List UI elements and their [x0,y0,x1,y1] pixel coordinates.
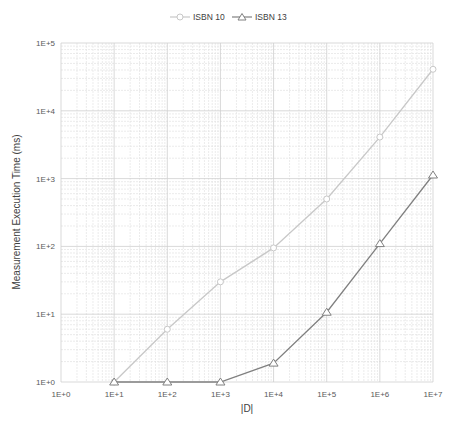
circle-marker-icon [324,196,330,202]
circle-marker-icon [377,134,383,140]
circle-marker-icon [271,245,277,251]
triangle-marker-icon [322,308,331,315]
legend-item-isbn10: ISBN 10 [170,12,225,22]
y-tick-label: 1E+1 [36,310,55,319]
circle-marker-icon [217,279,223,285]
x-tick-label: 1E+7 [424,390,443,399]
triangle-marker-icon [375,240,384,247]
x-tick-label: 1E+3 [211,390,230,399]
legend-label: ISBN 13 [255,12,287,22]
x-tick-label: 1E+2 [158,390,177,399]
y-tick-label: 1E+2 [36,242,55,251]
y-axis-ticks: 1E+01E+11E+21E+31E+41E+5 [36,39,55,387]
circle-marker-icon [430,66,436,72]
x-tick-label: 1E+4 [264,390,283,399]
chart: 1E+01E+11E+21E+31E+41E+5 1E+01E+11E+21E+… [0,0,465,431]
legend-label: ISBN 10 [193,12,225,22]
y-axis-title: Measurement Execution Time (ms) [11,134,22,289]
legend-item-isbn13: ISBN 13 [232,12,287,22]
x-tick-label: 1E+0 [52,390,71,399]
x-axis-ticks: 1E+01E+11E+21E+31E+41E+51E+61E+7 [52,390,443,399]
gridlines [61,43,433,382]
triangle-marker-icon [429,171,438,178]
x-tick-label: 1E+6 [370,390,389,399]
x-tick-label: 1E+5 [317,390,336,399]
legend: ISBN 10 ISBN 13 [170,12,287,22]
y-tick-label: 1E+3 [36,175,55,184]
x-tick-label: 1E+1 [105,390,124,399]
circle-marker-icon [177,14,183,20]
y-tick-label: 1E+5 [36,39,55,48]
y-tick-label: 1E+0 [36,378,55,387]
y-tick-label: 1E+4 [36,107,55,116]
x-axis-title: |D| [241,403,253,414]
circle-marker-icon [164,326,170,332]
